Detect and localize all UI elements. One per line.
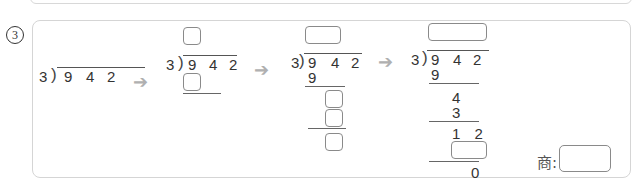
quotient-box[interactable] (305, 26, 341, 44)
exercise-panel: 3 ) 9 4 2 ➔ 3 ) 9 4 2 ➔ 3 ) 9 4 2 9 ➔ (32, 20, 631, 178)
dividend-digit: 4 (453, 51, 461, 68)
dividend-digit: 4 (86, 68, 94, 85)
dividend-digit: 4 (209, 56, 217, 73)
product-box[interactable] (183, 73, 201, 91)
subtraction-line (429, 121, 479, 122)
quotient-box[interactable] (428, 23, 487, 41)
subtraction-line (308, 128, 346, 129)
dividend-digit: 2 (229, 56, 237, 73)
division-bracket: ) (299, 51, 305, 71)
dividend-digit: 9 (188, 56, 196, 73)
product-box[interactable] (451, 141, 487, 159)
previous-panel-edge (30, 0, 632, 4)
product-digit: 9 (308, 69, 316, 86)
product-digit: 9 (431, 66, 439, 83)
arrow-icon: ➔ (133, 71, 148, 93)
remainder-digits: 1 2 (452, 125, 488, 142)
arrow-icon: ➔ (254, 59, 269, 81)
divisor: 3 (39, 68, 47, 85)
subtraction-line (429, 161, 479, 162)
product-box[interactable] (325, 109, 343, 127)
quotient-box[interactable] (183, 27, 201, 45)
subtraction-line (183, 93, 221, 94)
final-remainder: 0 (471, 164, 479, 179)
dividend-digit: 9 (64, 68, 72, 85)
division-bracket: ) (178, 53, 184, 73)
division-bracket: ) (422, 48, 428, 68)
dividend-digit: 2 (473, 51, 481, 68)
subtraction-line (305, 86, 345, 87)
product-digit: 3 (452, 104, 460, 121)
divisor: 3 (411, 51, 419, 68)
subtraction-line (429, 83, 479, 84)
question-number: 3 (6, 26, 24, 44)
answer-label: 商: (537, 151, 557, 172)
answer-box[interactable] (559, 145, 611, 172)
arrow-icon: ➔ (378, 51, 393, 73)
dividend-digit: 4 (331, 54, 339, 71)
divisor: 3 (166, 56, 174, 73)
remainder-box[interactable] (325, 133, 343, 151)
division-bracket: ) (51, 65, 57, 85)
dividend-digit: 2 (107, 68, 115, 85)
remainder-box[interactable] (325, 90, 343, 108)
dividend-digit: 2 (351, 54, 359, 71)
